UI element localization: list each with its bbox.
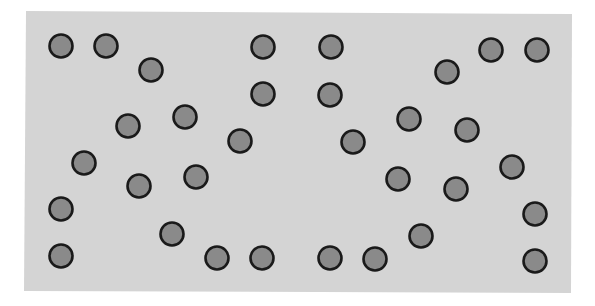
circle-dot xyxy=(140,59,163,82)
circle-dot xyxy=(95,35,118,58)
circle-dot xyxy=(524,250,547,273)
circle-dot xyxy=(229,130,252,153)
circle-dot xyxy=(174,106,197,129)
circle-dot xyxy=(251,247,274,270)
circle-dot xyxy=(185,166,208,189)
circle-dot xyxy=(480,39,503,62)
circle-dot xyxy=(387,168,410,191)
circle-dot xyxy=(398,108,421,131)
circle-dot xyxy=(524,203,547,226)
circle-dot xyxy=(50,35,73,58)
circle-dot xyxy=(501,156,524,179)
circle-dot xyxy=(410,225,433,248)
circle-dot xyxy=(445,178,468,201)
circle-dot xyxy=(73,152,96,175)
circle-dot xyxy=(128,175,151,198)
circle-dot xyxy=(117,115,140,138)
circle-dot xyxy=(320,36,343,59)
circle-dot xyxy=(206,247,229,270)
circle-dot xyxy=(252,36,275,59)
circle-dot xyxy=(526,39,549,62)
circle-dot xyxy=(342,131,365,154)
circle-dot xyxy=(456,119,479,142)
dot-pattern-figure xyxy=(0,0,595,306)
circle-dot xyxy=(436,61,459,84)
circle-dot xyxy=(161,223,184,246)
circle-dot xyxy=(50,245,73,268)
circle-dot xyxy=(319,247,342,270)
circle-dot xyxy=(319,84,342,107)
circle-dot xyxy=(252,83,275,106)
circle-dot xyxy=(50,198,73,221)
circle-dot xyxy=(364,248,387,271)
